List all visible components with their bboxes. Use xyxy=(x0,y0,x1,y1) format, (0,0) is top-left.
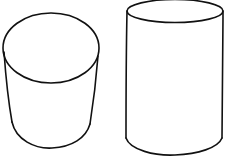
tall-cylinder-left-side xyxy=(126,11,127,138)
tall-cylinder-right-side xyxy=(222,11,223,138)
tapered-cylinder-bottom xyxy=(12,122,90,148)
tapered-cylinder xyxy=(3,13,99,148)
tall-cylinder xyxy=(126,0,223,155)
diagram-canvas xyxy=(0,0,226,162)
tall-cylinder-top xyxy=(127,0,223,23)
tapered-cylinder-top xyxy=(3,13,99,83)
tall-cylinder-bottom xyxy=(126,138,222,155)
